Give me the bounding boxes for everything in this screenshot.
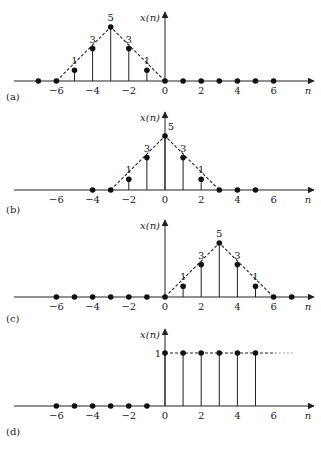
sample-point	[180, 283, 186, 289]
sample-point	[126, 403, 132, 409]
sample-point	[198, 350, 204, 356]
sample-point	[217, 240, 223, 246]
y-axis-label: x(n)	[140, 329, 160, 340]
sample-point	[72, 294, 78, 300]
sample-point	[198, 78, 204, 84]
sample-point	[144, 155, 150, 161]
sample-point	[253, 283, 259, 289]
sample-point	[235, 187, 241, 193]
tick-label: 6	[270, 301, 276, 312]
tick-label: 2	[198, 301, 204, 312]
value-label: 1	[198, 164, 204, 175]
panel-d: x(n)n−6−4−20246(d)1	[6, 329, 314, 437]
sample-point	[235, 350, 241, 356]
panel-label: (c)	[6, 313, 20, 324]
sample-point	[144, 294, 150, 300]
sample-point	[90, 294, 96, 300]
value-label: 5	[168, 121, 174, 132]
sample-point	[180, 155, 186, 161]
sample-point	[217, 78, 223, 84]
panel-label: (a)	[6, 91, 20, 102]
sample-point	[198, 262, 204, 268]
sample-point	[72, 403, 78, 409]
tick-label: −4	[85, 301, 100, 312]
value-label: 1	[180, 271, 186, 282]
level-label: 1	[155, 348, 161, 359]
sample-point	[54, 403, 60, 409]
tick-label: −2	[121, 85, 136, 96]
value-label: 3	[144, 143, 150, 154]
value-label: 3	[234, 250, 240, 261]
tick-label: −6	[49, 85, 64, 96]
tick-label: 0	[162, 301, 168, 312]
tick-label: 2	[198, 85, 204, 96]
tick-label: −2	[121, 301, 136, 312]
tick-label: −6	[49, 410, 64, 421]
sample-point	[253, 187, 259, 193]
tick-label: −4	[85, 194, 100, 205]
panel-c: x(n)n−6−4−20246(c)13531	[6, 220, 314, 324]
sample-point	[108, 403, 114, 409]
sample-point	[198, 176, 204, 182]
tick-label: 4	[234, 194, 240, 205]
tick-label: 6	[270, 194, 276, 205]
sample-point	[217, 187, 223, 193]
y-axis-label: x(n)	[140, 112, 160, 123]
sample-point	[108, 294, 114, 300]
x-axis-label: n	[305, 410, 311, 421]
sample-point	[180, 78, 186, 84]
tick-label: 6	[270, 85, 276, 96]
value-label: 5	[108, 12, 114, 23]
tick-label: 2	[198, 194, 204, 205]
sample-point	[271, 294, 277, 300]
sample-point	[271, 78, 277, 84]
tick-label: 4	[234, 85, 240, 96]
sample-point	[90, 187, 96, 193]
tick-label: 0	[162, 410, 168, 421]
value-label: 1	[252, 271, 258, 282]
sample-point	[253, 350, 259, 356]
panel-b: x(n)n−6−4−20246(b)13531	[6, 112, 314, 215]
value-label: 3	[180, 143, 186, 154]
sample-point	[54, 78, 60, 84]
x-axis-label: n	[305, 194, 311, 205]
sample-point	[72, 67, 78, 73]
sample-point	[126, 46, 132, 52]
value-label: 3	[126, 34, 132, 45]
sample-point	[162, 350, 168, 356]
value-label: 1	[71, 55, 77, 66]
tick-label: −4	[85, 85, 100, 96]
sample-point	[235, 262, 241, 268]
tick-label: −2	[121, 194, 136, 205]
sample-point	[126, 294, 132, 300]
tick-label: 0	[162, 194, 168, 205]
sample-point	[144, 403, 150, 409]
tick-label: −6	[49, 301, 64, 312]
sample-point	[253, 78, 259, 84]
sample-point	[54, 294, 60, 300]
sample-point	[162, 294, 168, 300]
x-axis-label: n	[305, 85, 311, 96]
panel-label: (b)	[6, 204, 20, 215]
tick-label: 6	[270, 410, 276, 421]
signal-figure: x(n)n−6−4−20246(a)13531 x(n)n−6−4−20246(…	[0, 0, 321, 449]
tick-label: 4	[234, 301, 240, 312]
tick-label: 4	[234, 410, 240, 421]
panel-a: x(n)n−6−4−20246(a)13531	[6, 12, 314, 102]
sample-point	[90, 403, 96, 409]
sample-point	[217, 350, 223, 356]
value-label: 5	[216, 228, 222, 239]
value-label: 1	[126, 164, 132, 175]
sample-point	[289, 294, 295, 300]
panel-label: (d)	[6, 426, 20, 437]
x-axis-label: n	[305, 301, 311, 312]
tick-label: −2	[121, 410, 136, 421]
value-label: 3	[89, 34, 95, 45]
tick-label: −6	[49, 194, 64, 205]
sample-point	[108, 24, 114, 30]
sample-point	[36, 78, 42, 84]
value-label: 1	[144, 55, 150, 66]
sample-point	[162, 78, 168, 84]
y-axis-label: x(n)	[140, 220, 160, 231]
sample-point	[144, 67, 150, 73]
